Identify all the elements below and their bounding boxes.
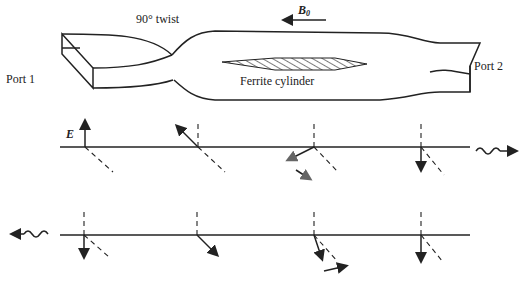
backward-row	[12, 209, 470, 271]
b0-label: B0	[297, 3, 310, 18]
ferrite-cylinder	[222, 58, 367, 70]
port2-label: Port 2	[474, 59, 503, 73]
wave-right-icon	[476, 148, 500, 154]
ferrite-label: Ferrite cylinder	[240, 74, 314, 88]
e-field-label: E	[65, 127, 74, 141]
port1-label: Port 1	[6, 72, 35, 86]
forward-row: E	[60, 121, 516, 179]
gyrator-diagram: 90° twist B0 Port 1 Port 2 Ferrite cylin…	[0, 0, 525, 285]
waveguide	[62, 20, 480, 100]
wave-left-icon	[24, 231, 48, 237]
twist-label: 90° twist	[136, 12, 180, 26]
